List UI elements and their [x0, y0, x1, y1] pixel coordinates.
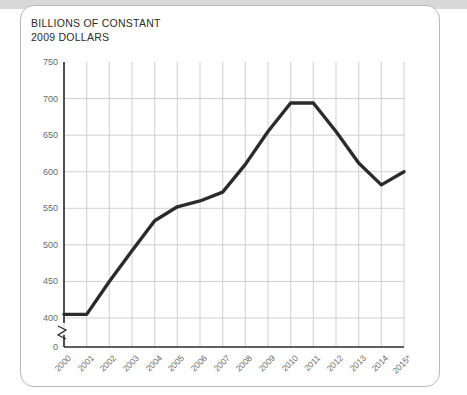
chart-canvas	[0, 0, 467, 395]
x-axis-ticks	[64, 62, 404, 347]
chart-page: BILLIONS OF CONSTANT 2009 DOLLARS 400450…	[0, 0, 467, 395]
grid-lines	[64, 99, 404, 318]
chart-plot-area: 4004505005506006507007500 20002001200220…	[0, 0, 467, 395]
